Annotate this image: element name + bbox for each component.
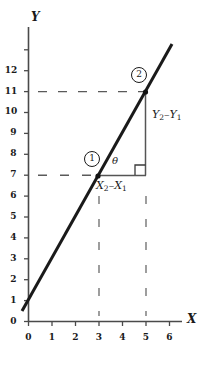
y-tick-9: 9 <box>7 128 20 137</box>
y-tick-7: 7 <box>7 170 20 179</box>
run-label: X2–X1 <box>96 180 127 191</box>
slope-diagram: Y X 0 1 2 3 4 5 6 7 8 9 10 11 12 0 1 2 3… <box>0 0 206 375</box>
point-badge-1: 1 <box>84 151 100 167</box>
y-tick-11: 11 <box>2 87 20 96</box>
x-tick-6: 6 <box>163 333 176 342</box>
run-label-x2-base: X <box>96 179 104 192</box>
rise-label: Y2–Y1 <box>152 109 182 120</box>
y-tick-10: 10 <box>2 107 20 116</box>
x-tick-2: 2 <box>69 333 82 342</box>
y-tick-3: 3 <box>7 254 20 263</box>
y-tick-5: 5 <box>7 212 20 221</box>
x-tick-0: 0 <box>22 333 35 342</box>
y-tick-1: 1 <box>7 296 20 305</box>
y-tick-2: 2 <box>7 275 20 284</box>
x-tick-5: 5 <box>140 333 153 342</box>
point-badge-2: 2 <box>131 67 147 83</box>
theta-angle-label: θ <box>112 156 118 166</box>
run-label-x2-sub: 2 <box>104 184 109 193</box>
x-tick-3: 3 <box>93 333 106 342</box>
point-marker-2 <box>143 89 148 94</box>
x-tick-4: 4 <box>116 333 129 342</box>
rise-label-y2-sub: 2 <box>159 113 164 122</box>
y-tick-8: 8 <box>7 149 20 158</box>
y-tick-4: 4 <box>7 233 20 242</box>
y-tick-0: 0 <box>7 317 20 326</box>
point-marker-1 <box>95 173 100 178</box>
right-angle-marker <box>135 165 146 175</box>
x-axis-label: X <box>187 313 196 325</box>
y-axis-label: Y <box>31 11 40 23</box>
rise-label-y1-base: Y <box>170 108 177 121</box>
y-tick-12: 12 <box>2 66 20 75</box>
y-tick-6: 6 <box>7 191 20 200</box>
run-label-x1-base: X <box>114 179 122 192</box>
rise-label-y1-sub: 1 <box>177 113 182 122</box>
run-label-x1-sub: 1 <box>122 184 127 193</box>
x-tick-1: 1 <box>46 333 59 342</box>
